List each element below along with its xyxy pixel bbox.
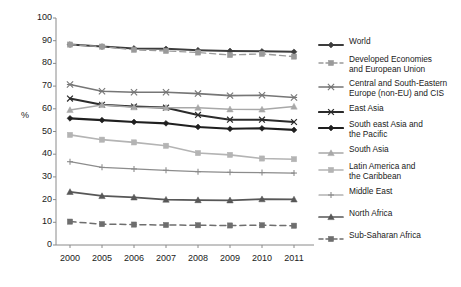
data-point-marker	[227, 223, 232, 228]
legend-item[interactable]: Developed Economies and European Union	[318, 54, 432, 74]
x-tick-label: 2000	[53, 253, 87, 263]
legend-swatch-icon	[318, 145, 344, 157]
legend-label: Latin America and the Caribbean	[349, 161, 415, 181]
data-point-marker	[131, 89, 137, 95]
series-latin-america-and-the-caribbean	[67, 132, 296, 161]
legend-label: Central and South-Eastern Europe (non-EU…	[349, 78, 447, 98]
data-point-marker	[195, 124, 201, 130]
legend-swatch-icon	[318, 104, 344, 116]
legend-item[interactable]: Latin America and the Caribbean	[318, 161, 415, 181]
series-sub-saharan-africa	[67, 219, 296, 228]
data-point-marker	[259, 51, 264, 56]
legend-swatch-icon	[318, 120, 344, 132]
data-point-marker	[227, 52, 232, 57]
legend-item[interactable]: North Africa	[318, 208, 392, 221]
data-point-marker	[163, 89, 169, 95]
legend-label: Developed Economies and European Union	[349, 54, 432, 74]
legend-item[interactable]: South east Asia and the Pacific	[318, 119, 423, 139]
data-point-marker	[163, 167, 169, 173]
data-point-marker	[195, 50, 200, 55]
y-tick-label: 30	[26, 171, 52, 181]
data-point-marker	[291, 157, 296, 162]
data-point-marker	[99, 137, 104, 142]
legend-item[interactable]: World	[318, 36, 371, 49]
data-point-marker	[259, 223, 264, 228]
x-tick-label: 2010	[245, 253, 279, 263]
data-point-marker	[291, 127, 297, 133]
data-point-marker	[291, 94, 297, 100]
data-point-marker	[195, 223, 200, 228]
chart-plot-area	[0, 0, 461, 287]
data-point-marker	[195, 150, 200, 155]
data-point-marker	[67, 42, 72, 47]
legend-item[interactable]: South Asia	[318, 144, 389, 157]
data-point-marker	[67, 81, 73, 87]
legend-item[interactable]: Middle East	[318, 186, 392, 199]
x-tick-label: 2009	[213, 253, 247, 263]
data-point-marker	[99, 164, 105, 170]
data-point-marker	[227, 169, 233, 175]
data-point-marker	[328, 84, 334, 90]
data-point-marker	[259, 125, 265, 131]
data-point-marker	[131, 140, 136, 145]
data-point-marker	[131, 119, 137, 125]
legend-label: World	[349, 36, 371, 46]
legend-item[interactable]: Sub-Saharan Africa	[318, 230, 421, 243]
y-tick-label: 40	[26, 148, 52, 158]
legend-swatch-icon	[318, 231, 344, 243]
data-point-marker	[328, 192, 334, 198]
data-point-marker	[291, 170, 297, 176]
data-point-marker	[259, 170, 265, 176]
legend-swatch-icon	[318, 55, 344, 67]
data-point-marker	[67, 115, 73, 121]
legend-label: Sub-Saharan Africa	[349, 230, 421, 240]
legend-label: Middle East	[349, 186, 392, 196]
y-tick-label: 10	[26, 216, 52, 226]
data-point-marker	[99, 44, 104, 49]
legend-swatch-icon	[318, 187, 344, 199]
data-point-marker	[131, 47, 136, 52]
data-point-marker	[328, 42, 334, 48]
x-tick-label: 2007	[149, 253, 183, 263]
data-point-marker	[99, 222, 104, 227]
data-point-marker	[163, 222, 168, 227]
legend-item[interactable]: East Asia	[318, 103, 384, 116]
y-tick-label: 20	[26, 194, 52, 204]
x-tick-label: 2011	[277, 253, 311, 263]
x-tick-label: 2005	[85, 253, 119, 263]
data-point-marker	[99, 88, 105, 94]
data-point-marker	[67, 159, 73, 165]
series-central-and-south-eastern-europe-non-eu-and-cis	[67, 81, 297, 100]
data-point-marker	[163, 48, 168, 53]
legend-swatch-icon	[318, 209, 344, 221]
y-tick-label: 60	[26, 103, 52, 113]
data-point-marker	[328, 236, 333, 241]
legend-label: East Asia	[349, 103, 384, 113]
legend-swatch-icon	[318, 162, 344, 174]
data-point-marker	[328, 125, 334, 131]
y-tick-label: 70	[26, 80, 52, 90]
y-tick-label: 0	[26, 239, 52, 249]
data-point-marker	[328, 167, 333, 172]
legend-item[interactable]: Central and South-Eastern Europe (non-EU…	[318, 78, 447, 98]
data-point-marker	[99, 117, 105, 123]
series-north-africa	[67, 189, 297, 203]
data-point-marker	[227, 152, 232, 157]
data-point-marker	[163, 120, 169, 126]
series-south-east-asia-and-the-pacific	[67, 115, 297, 132]
legend-label: South Asia	[349, 144, 389, 154]
data-point-marker	[259, 156, 264, 161]
data-point-marker	[291, 54, 296, 59]
data-point-marker	[195, 90, 201, 96]
data-point-marker	[131, 166, 137, 172]
data-point-marker	[195, 169, 201, 175]
y-tick-label: 90	[26, 35, 52, 45]
y-tick-label: 100	[26, 12, 52, 22]
legend-swatch-icon	[318, 79, 344, 91]
y-tick-label: 50	[26, 126, 52, 136]
data-point-marker	[227, 93, 233, 99]
data-point-marker	[227, 126, 233, 132]
x-tick-label: 2008	[181, 253, 215, 263]
data-point-marker	[291, 223, 296, 228]
data-point-marker	[163, 143, 168, 148]
